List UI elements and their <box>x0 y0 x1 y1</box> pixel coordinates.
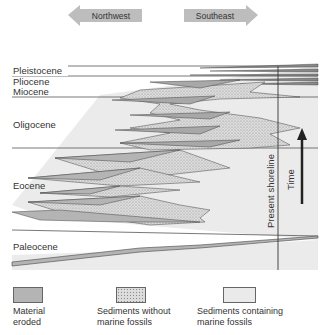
southeast-arrow: Southeast <box>184 5 258 26</box>
legend-label: Sediments containing marine fossils <box>197 306 283 328</box>
southeast-label: Southeast <box>196 11 235 21</box>
stratigraphic-cross-section: Northwest Southeast <box>0 0 328 335</box>
northwest-label: Northwest <box>92 11 131 21</box>
swatch-stippled <box>116 287 146 303</box>
epoch-pleistocene: Pleistocene <box>13 65 62 76</box>
northwest-arrow: Northwest <box>68 5 142 26</box>
legend-label: Material eroded <box>13 306 45 328</box>
epoch-miocene: Miocene <box>13 86 49 97</box>
epoch-eocene: Eocene <box>13 180 45 191</box>
present-shoreline-label: Present shoreline <box>265 154 276 228</box>
swatch-eroded <box>13 287 43 303</box>
legend-label: Sediments without marine fossils <box>97 306 171 328</box>
epoch-paleocene: Paleocene <box>13 241 58 252</box>
swatch-marine <box>223 287 256 303</box>
legend-nonmarine-sediments: Sediments without marine fossils <box>97 287 171 328</box>
legend-material-eroded: Material eroded <box>13 287 45 328</box>
time-label: Time <box>285 169 296 190</box>
legend-marine-sediments: Sediments containing marine fossils <box>197 287 283 328</box>
epoch-oligocene: Oligocene <box>13 119 56 130</box>
